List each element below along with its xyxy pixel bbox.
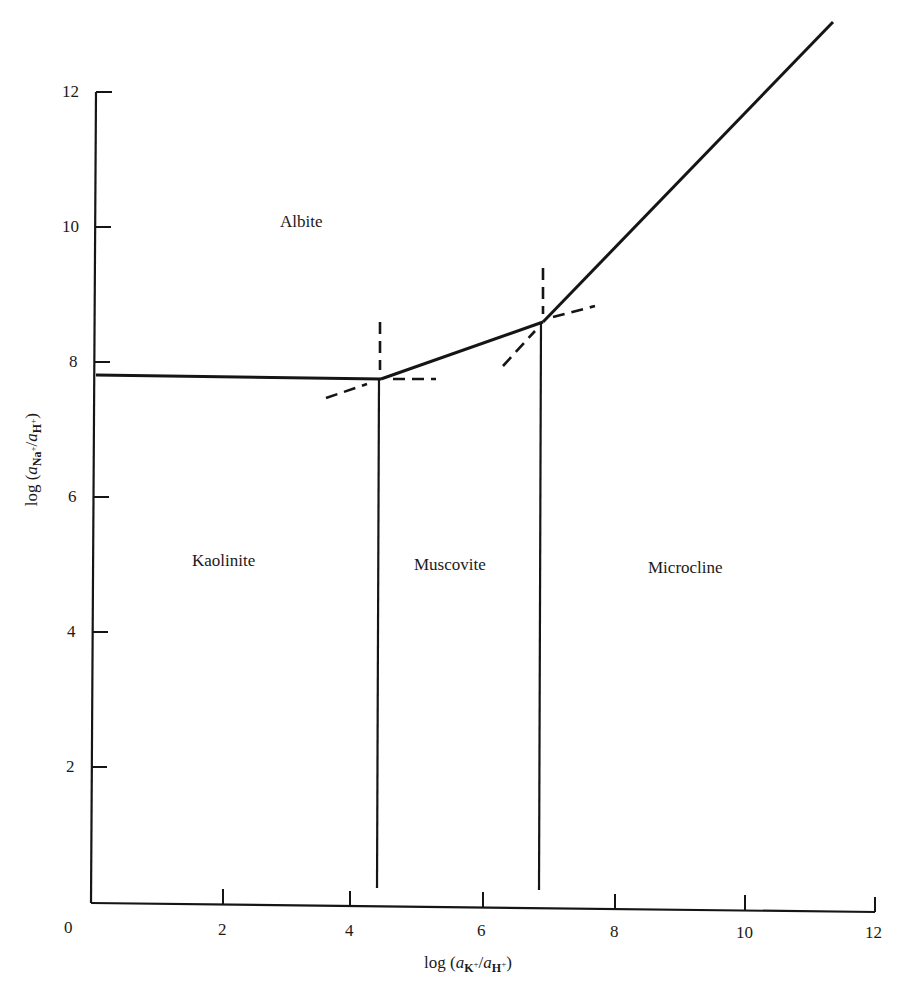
region-label-muscovite: Muscovite	[414, 555, 486, 575]
y-title-sup1: +	[29, 446, 39, 451]
y-title-sub2: H	[31, 424, 45, 433]
y-title-a2: a	[22, 433, 41, 442]
x-tick-label-4: 4	[345, 921, 354, 941]
x-title-suffix: )	[506, 953, 512, 972]
x-axis-title: log (aK+/aH+)	[424, 953, 512, 976]
phase-diagram	[0, 0, 906, 994]
x-title-sub2: H	[492, 961, 501, 975]
y-tick-label-6: 6	[68, 487, 77, 507]
y-tick-label-8: 8	[69, 352, 78, 372]
x-tick-label-2: 2	[218, 920, 227, 940]
x-tick-label-6: 6	[477, 921, 486, 941]
muscovite-microcline-boundary	[539, 322, 541, 890]
y-tick-label-10: 10	[62, 217, 79, 237]
kaolinite-muscovite-boundary	[377, 379, 379, 888]
x-title-prefix: log (	[424, 953, 456, 972]
y-title-a1: a	[22, 466, 41, 475]
region-label-microcline: Microcline	[648, 558, 723, 578]
kaolinite-albite-boundary	[96, 375, 381, 379]
y-title-sub1: Na	[31, 451, 45, 466]
microcline-albite-boundary	[543, 22, 833, 322]
x-title-a1: a	[456, 953, 465, 972]
x-tick-label-8: 8	[610, 922, 619, 942]
y-tick-label-2: 2	[66, 757, 75, 777]
region-label-kaolinite: Kaolinite	[192, 551, 255, 571]
x-title-a2: a	[483, 953, 492, 972]
region-label-albite: Albite	[280, 212, 323, 232]
y-title-suffix: )	[22, 413, 41, 419]
y-title-slash: /	[22, 442, 41, 447]
y-title-prefix: log (	[22, 475, 41, 507]
x-tick-label-12: 12	[865, 923, 882, 943]
y-tick-label-4: 4	[67, 622, 76, 642]
y-tick-label-12: 12	[62, 82, 79, 102]
y-axis-title: log (aNa+/aH+)	[22, 390, 45, 530]
x-tick-label-10: 10	[736, 923, 753, 943]
y-title-sup2: +	[29, 419, 39, 424]
x-tick-label-0: 0	[64, 918, 73, 938]
